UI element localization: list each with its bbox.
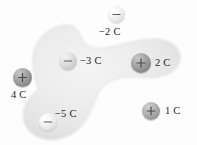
minus-sign-icon: [108, 6, 125, 23]
plus-sign-icon: [131, 53, 151, 73]
plus-sign-icon: [13, 68, 32, 87]
charge-sphere-minus-2c: [108, 6, 125, 23]
charge-label-plus-2c: 2 C: [155, 57, 170, 68]
charge-sphere-plus-4c: [13, 68, 32, 87]
charge-sphere-minus-3c: [59, 52, 77, 70]
charge-sphere-plus-1c: [142, 102, 160, 120]
charge-sphere-plus-2c: [131, 53, 151, 73]
minus-sign-icon: [59, 52, 77, 70]
electric-charge-gaussian-surface-figure: −2 C−3 C2 C4 C−5 C1 C: [0, 0, 197, 145]
charge-label-plus-4c: 4 C: [11, 89, 26, 100]
charge-label-minus-2c: −2 C: [99, 26, 121, 37]
charge-label-minus-3c: −3 C: [80, 55, 102, 66]
plus-sign-icon: [142, 102, 160, 120]
charge-label-plus-1c: 1 C: [165, 105, 180, 116]
charge-label-minus-5c: −5 C: [55, 108, 77, 119]
